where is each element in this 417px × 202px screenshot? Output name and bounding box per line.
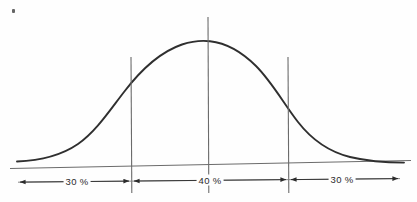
right-segment-label: 30 % — [329, 174, 356, 185]
distribution-chart-svg — [0, 0, 417, 202]
center-segment-label: 40 % — [197, 175, 224, 186]
figure-root: 30 % 40 % 30 % — [0, 0, 417, 202]
scan-speck-artifact — [12, 9, 15, 13]
left-segment-label: 30 % — [64, 176, 91, 187]
